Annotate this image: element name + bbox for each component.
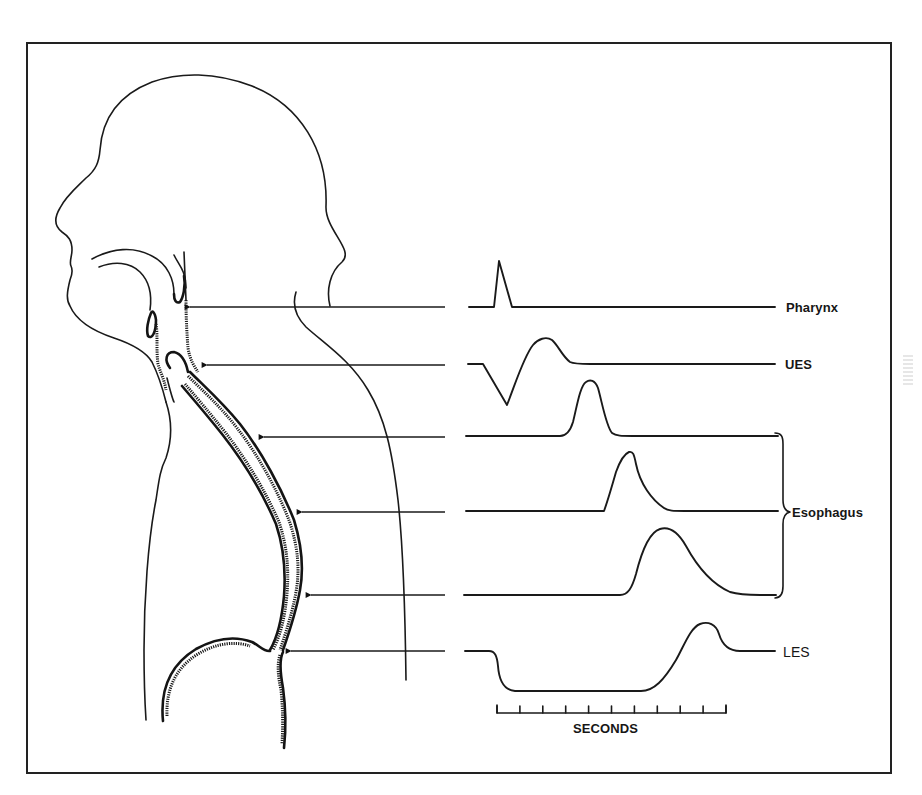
- pharynx-front-wall: [156, 324, 166, 390]
- trachea-front: [167, 378, 174, 402]
- label-ues: UES: [785, 358, 812, 371]
- time-scale: [497, 705, 726, 713]
- chest-contour: [144, 402, 171, 720]
- trace-pharynx: [469, 261, 775, 307]
- face-profile: [56, 75, 346, 402]
- stomach: [162, 639, 285, 748]
- trace-esophagus-2: [466, 452, 778, 511]
- pharynx-back-wall: [186, 300, 198, 372]
- upper-airway: [92, 250, 198, 402]
- time-axis-ticks: [497, 706, 726, 713]
- stomach-fundus: [162, 639, 270, 721]
- pressure-traces: [464, 261, 778, 691]
- trace-les: [465, 623, 775, 691]
- body-silhouette: [56, 75, 406, 720]
- esophagus-brace: [775, 433, 790, 598]
- trace-esophagus-3: [464, 528, 776, 595]
- palate: [92, 250, 174, 294]
- trachea-top: [167, 352, 188, 372]
- back-contour: [294, 292, 406, 680]
- scan-smudge: [903, 355, 913, 385]
- label-esophagus: Esophagus: [792, 506, 863, 519]
- label-pharynx: Pharynx: [786, 301, 838, 314]
- probe-arrows: [190, 307, 445, 651]
- stomach-fundus-lining: [167, 643, 250, 716]
- diagram-canvas: [0, 0, 922, 795]
- label-time-axis: SECONDS: [573, 722, 638, 735]
- trace-ues: [468, 338, 775, 405]
- epiglottis: [174, 276, 185, 303]
- esophagus: [182, 372, 302, 650]
- label-les: LES: [783, 645, 810, 659]
- tongue: [99, 263, 151, 310]
